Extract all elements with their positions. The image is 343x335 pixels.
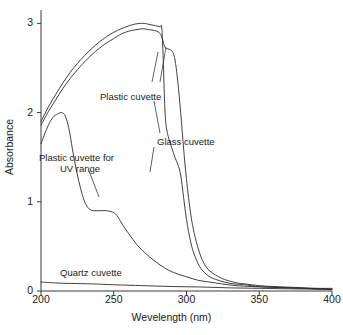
x-tick-label: 250 (94, 293, 134, 305)
uv-plastic-label-line1: Plastic cuvette for (39, 152, 114, 163)
plot-canvas (0, 0, 343, 335)
plastic-leader-line-3 (154, 101, 160, 133)
x-tick-label: 300 (167, 293, 207, 305)
x-axis-title: Wevelength (nm) (0, 311, 343, 323)
plastic-leader-line (152, 52, 158, 82)
glass-cuvette-label: Glass cuvette (157, 136, 215, 147)
quartz-cuvette-label: Quartz cuvette (60, 267, 122, 278)
y-tick-label: 3 (17, 16, 33, 28)
uv-plastic-label-line2: UV range (60, 163, 100, 174)
x-tick-label: 400 (312, 293, 343, 305)
absorbance-spectra-chart: Wevelength (nm) Absorbance 2002503003504… (0, 0, 343, 335)
plastic-cuvette-label: Plastic cuvette (100, 91, 161, 102)
y-axis-title: Absorbance (3, 102, 15, 192)
uv-plastic-leader-line (89, 171, 99, 197)
plot-frame (41, 10, 332, 291)
y-tick-label: 2 (17, 106, 33, 118)
label-leader-lines (89, 47, 166, 197)
y-tick-label: 0 (17, 284, 33, 296)
glass-leader-line (150, 147, 154, 172)
x-tick-label: 350 (239, 293, 279, 305)
y-tick-label: 1 (17, 195, 33, 207)
curve-quartz-cuvette (41, 282, 332, 290)
